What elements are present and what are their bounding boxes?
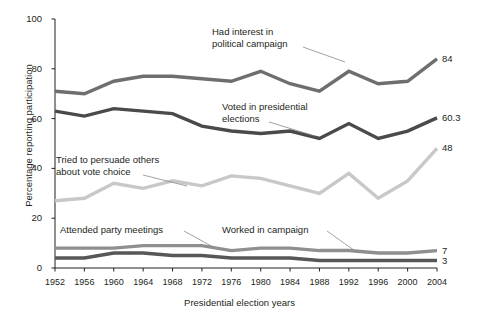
series-line-had-interest-in-political-campaign [55, 59, 437, 94]
end-label-worked: 3 [442, 255, 447, 266]
annotation-line-1: Tried to persuade others [56, 154, 159, 166]
annotation-line-1: Had interest in [212, 26, 288, 38]
annotation-persuade: Tried to persuade othersabout vote choic… [56, 154, 159, 177]
annotation-line-1: Worked in campaign [222, 224, 308, 236]
end-label-voted: 60.3 [442, 112, 461, 123]
annotation-line-1: Voted in presidential [222, 101, 308, 113]
chart-figure: Trends in political participation Percen… [0, 0, 479, 325]
annotation-line-2: about vote choice [56, 166, 159, 178]
annotation-line-2: elections [222, 113, 308, 125]
leader-line-had-interest [303, 47, 345, 62]
annotation-line-2: political campaign [212, 38, 288, 50]
end-label-persuade: 48 [442, 142, 453, 153]
annotation-had-interest: Had interest inpolitical campaign [212, 26, 288, 49]
annotation-voted: Voted in presidentialelections [222, 101, 308, 124]
annotation-attended: Attended party meetings [60, 224, 163, 236]
annotation-worked: Worked in campaign [222, 224, 308, 236]
annotation-line-1: Attended party meetings [60, 224, 163, 236]
end-label-had-interest: 84 [442, 53, 453, 64]
